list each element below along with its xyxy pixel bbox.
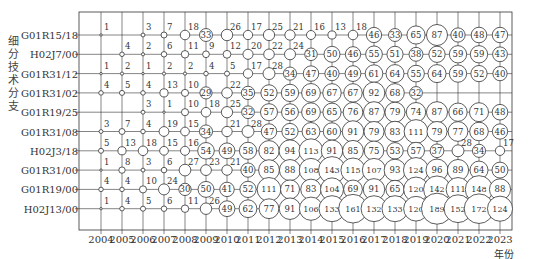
bubble: 29 <box>200 87 212 99</box>
bubble-value: 27 <box>188 157 199 167</box>
bubble-value: 87 <box>432 107 443 117</box>
bubble: 115 <box>341 158 365 182</box>
y-tick-label: H02J3/18 <box>30 145 78 156</box>
bubble-value: 55 <box>411 69 422 79</box>
bubble: 11 <box>181 196 199 213</box>
bubble-value: 13 <box>125 138 136 148</box>
bubble: 52 <box>429 46 445 62</box>
bubble: 83 <box>385 121 406 142</box>
bubble: 83 <box>301 179 322 200</box>
bubble: 91 <box>342 121 364 143</box>
bubble: 40 <box>325 66 339 80</box>
bubble: 49 <box>345 66 361 82</box>
bubble-value: 59 <box>453 49 464 59</box>
y-tick-label: G01R15/18 <box>21 30 78 41</box>
bubble-value: 57 <box>264 107 275 117</box>
bubble: 59 <box>449 65 466 82</box>
bubble-value: 40 <box>327 69 338 79</box>
bubble: 79 <box>427 121 447 141</box>
bubble-value: 43 <box>495 49 506 59</box>
bubble: 37 <box>430 144 444 158</box>
bubble: 6 <box>161 157 172 173</box>
bubble: 76 <box>343 102 363 122</box>
bubble-value: 10 <box>146 176 157 186</box>
bubble-value: 96 <box>432 165 443 175</box>
bubble: 64 <box>386 65 404 83</box>
bubble-value: 124 <box>408 166 423 175</box>
bubble-value: 6 <box>167 41 172 51</box>
bubble-value: 4 <box>125 41 130 51</box>
bubble: 47 <box>303 66 318 81</box>
bubble: 7 <box>119 119 130 135</box>
bubble-value: 52 <box>243 184 254 194</box>
bubble: 8 <box>119 157 131 173</box>
bubble-value: 51 <box>390 49 401 59</box>
bubble: 87 <box>426 102 447 123</box>
bubble-value: 4 <box>146 119 151 129</box>
bubble-value: 61 <box>369 69 380 79</box>
bubble-value: 33 <box>390 30 401 40</box>
bubble: 18 <box>348 22 367 40</box>
bubble-value: 37 <box>432 146 443 156</box>
bubble: 12 <box>223 41 241 58</box>
bubble: 7 <box>161 22 172 38</box>
bubble-value: 66 <box>453 107 464 117</box>
bubble: 27 <box>179 157 199 176</box>
bubble: 26 <box>221 22 241 41</box>
bubble-value: 32 <box>411 88 422 98</box>
bubble-value: 55 <box>369 49 380 59</box>
bubble-value: 111 <box>408 128 423 137</box>
bubble: 52 <box>282 123 298 139</box>
bubble-value: 59 <box>285 88 296 98</box>
bubble-value: 52 <box>285 127 296 137</box>
bubble-value: 41 <box>222 184 233 194</box>
bubble-value: 46 <box>348 49 359 59</box>
bubble-value: 11 <box>188 41 199 51</box>
bubble-value: 24 <box>293 41 304 51</box>
bubble-value: 85 <box>348 146 359 156</box>
bubble-value: 75 <box>369 146 380 156</box>
bubble-value: 69 <box>306 88 317 98</box>
bubble-value: 79 <box>390 107 401 117</box>
x-axis-title: 年份 <box>494 246 514 259</box>
bubble-value: 40 <box>243 165 254 175</box>
bubble: 79 <box>364 121 384 141</box>
bubble-value: 85 <box>264 165 275 175</box>
bubble-value: 71 <box>474 107 485 117</box>
bubble-value: 21 <box>293 22 304 32</box>
bubble-value: 47 <box>306 69 317 79</box>
bubble: 65 <box>407 26 425 44</box>
bubble-value: 46 <box>369 30 380 40</box>
bubble-value: 91 <box>285 204 296 214</box>
bubble-value: 79 <box>369 127 380 137</box>
bubble: 47 <box>492 27 507 42</box>
bubble-value: 5 <box>104 138 109 148</box>
bubble-value: 82 <box>264 146 275 156</box>
bubble-value: 38 <box>411 49 422 59</box>
bubble: 33 <box>389 29 402 42</box>
bubble-value: 46 <box>495 127 506 137</box>
bubble-value: 76 <box>348 107 359 117</box>
bubble-value: 92 <box>369 88 380 98</box>
bubble-value: 54 <box>201 146 212 156</box>
bubble-value: 3 <box>146 99 151 109</box>
bubble: 22 <box>222 80 241 98</box>
bubble-value: 7 <box>167 22 172 32</box>
bubble-value: 28 <box>461 138 472 148</box>
bubble-value: 21 <box>230 119 241 129</box>
bubble-value: 87 <box>432 30 443 40</box>
bubble-value: 56 <box>285 107 296 117</box>
bubble-value: 67 <box>327 88 338 98</box>
bubble-value: 35 <box>243 88 254 98</box>
bubble-value: 16 <box>188 138 199 148</box>
bubble-value: 34 <box>285 69 296 79</box>
bubble-value: 107 <box>366 166 381 175</box>
bubble-value: 58 <box>243 146 254 156</box>
bubble-value: 152 <box>450 205 465 214</box>
bubble-value: 57 <box>411 146 422 156</box>
bubble-value: 88 <box>495 184 506 194</box>
bubble-value: 89 <box>453 165 464 175</box>
bubble-value: 91 <box>348 127 359 137</box>
bubble: 40 <box>451 28 465 42</box>
bubble: 15 <box>160 138 178 155</box>
